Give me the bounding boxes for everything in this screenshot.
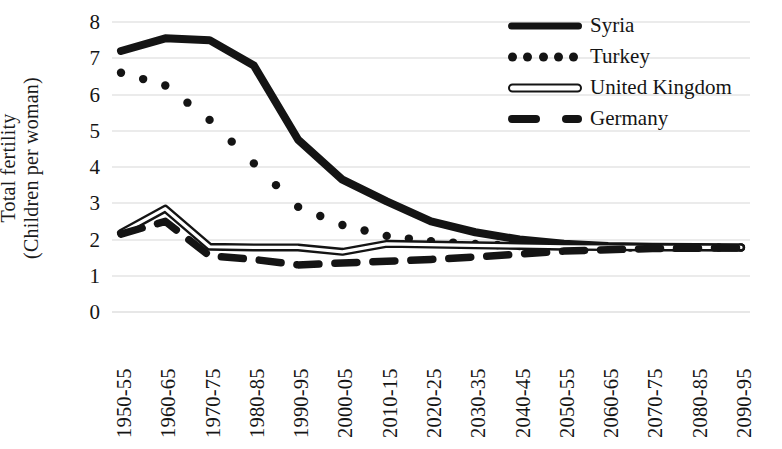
- x-tick-label-1950-55: 1950-55: [113, 368, 136, 438]
- y-tick-label-3: 3: [62, 193, 100, 214]
- legend-label: Germany: [590, 108, 668, 129]
- y-tick-label-1: 1: [62, 265, 100, 286]
- legend-label: Syria: [590, 15, 634, 36]
- x-tick-label-1960-65: 1960-65: [157, 368, 180, 438]
- x-tick-label-2080-85: 2080-85: [689, 368, 712, 438]
- legend-dot: [554, 52, 563, 61]
- x-tick-label-2070-75: 2070-75: [644, 368, 667, 438]
- data-point: [139, 75, 147, 83]
- data-point: [161, 81, 169, 89]
- legend-item-syria[interactable]: Syria: [506, 10, 774, 41]
- y-axis-title: Total fertility (Children per woman): [0, 18, 40, 318]
- x-tick-label-2060-65: 2060-65: [600, 368, 623, 438]
- legend-dot: [539, 52, 548, 61]
- legend-dot: [508, 52, 517, 61]
- x-tick-label-2040-45: 2040-45: [512, 368, 535, 438]
- y-tick-label-4: 4: [62, 157, 100, 178]
- data-point: [383, 232, 391, 240]
- y-tick-label-5: 5: [62, 120, 100, 141]
- hollow-line-key: [506, 77, 584, 99]
- x-tick-label-2090-95: 2090-95: [733, 368, 756, 438]
- legend-label: Turkey: [590, 46, 650, 67]
- y-tick-label-2: 2: [62, 229, 100, 250]
- x-tick-label-1990-95: 1990-95: [290, 368, 313, 438]
- y-axis-tick-labels: 876543210: [62, 0, 100, 449]
- data-point: [272, 181, 280, 189]
- x-tick-label-2030-35: 2030-35: [467, 368, 490, 438]
- x-tick-label-1980-85: 1980-85: [246, 368, 269, 438]
- data-point: [205, 116, 213, 124]
- y-axis-title-line-2: (Children per woman): [20, 77, 43, 259]
- data-point: [117, 69, 125, 77]
- x-axis-tick-labels: 1950-551960-651970-751980-851990-952000-…: [112, 312, 750, 449]
- y-tick-label-7: 7: [62, 48, 100, 69]
- legend-item-turkey[interactable]: Turkey: [506, 41, 774, 72]
- x-tick-label-2000-05: 2000-05: [334, 368, 357, 438]
- y-axis-title-line-1: Total fertility: [0, 114, 20, 223]
- legend-dash: [562, 115, 582, 123]
- data-point: [294, 203, 302, 211]
- legend-dot: [569, 52, 578, 61]
- solid-line-key: [506, 15, 584, 37]
- x-tick-label-2050-55: 2050-55: [556, 368, 579, 438]
- fertility-line-chart: Total fertility (Children per woman) 876…: [0, 0, 782, 449]
- x-tick-label-2010-15: 2010-15: [379, 368, 402, 438]
- legend-label: United Kingdom: [590, 77, 732, 98]
- dashed-line-key: [506, 108, 584, 130]
- y-tick-label-8: 8: [62, 12, 100, 33]
- legend-dash: [508, 115, 540, 123]
- x-tick-label-2020-25: 2020-25: [423, 368, 446, 438]
- data-point: [360, 226, 368, 234]
- chart-legend: SyriaTurkeyUnited KingdomGermany: [506, 10, 774, 134]
- legend-solid-bar: [508, 22, 582, 29]
- data-point: [183, 98, 191, 106]
- data-point: [316, 212, 324, 220]
- data-point: [228, 137, 236, 145]
- legend-item-united-kingdom[interactable]: United Kingdom: [506, 72, 774, 103]
- legend-item-germany[interactable]: Germany: [506, 103, 774, 134]
- data-point: [250, 159, 258, 167]
- y-tick-label-6: 6: [62, 84, 100, 105]
- dotted-line-key: [506, 46, 584, 68]
- legend-hollow-bar: [508, 83, 582, 92]
- legend-dot: [523, 52, 532, 61]
- y-tick-label-0: 0: [62, 302, 100, 323]
- x-tick-label-1970-75: 1970-75: [202, 368, 225, 438]
- data-point: [338, 221, 346, 229]
